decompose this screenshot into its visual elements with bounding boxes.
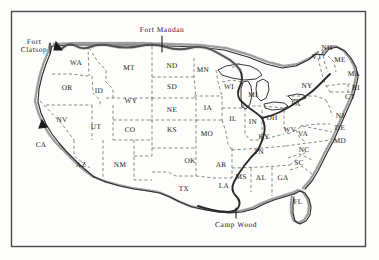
place-label-camp-wood: Camp Wood — [215, 221, 257, 228]
state-label-va: VA — [298, 130, 308, 137]
state-label-nh: NH — [321, 44, 332, 51]
state-label-ma: MA — [348, 70, 360, 77]
state-label-in: IN — [249, 118, 257, 125]
state-label-co: CO — [125, 126, 136, 133]
map-drawing — [0, 0, 379, 260]
state-label-nc: NC — [299, 146, 310, 153]
state-label-fl: FL — [293, 198, 302, 205]
state-label-ia: IA — [204, 104, 212, 111]
state-label-ok: OK — [184, 157, 195, 164]
state-label-pa: PA — [291, 100, 300, 107]
state-label-mn: MN — [197, 66, 209, 73]
state-label-il: IL — [229, 115, 237, 122]
place-label-line: Clatsop — [21, 45, 47, 54]
state-label-tn: TN — [254, 148, 264, 155]
state-label-mt: MT — [123, 64, 135, 71]
state-label-nj: NJ — [336, 112, 345, 119]
state-label-ca: CA — [36, 141, 47, 148]
state-label-ct: CT — [345, 93, 355, 100]
state-label-ks: KS — [167, 126, 177, 133]
state-label-or: OR — [62, 84, 73, 91]
state-label-ri: RI — [352, 84, 360, 91]
state-label-nv: NV — [56, 116, 67, 123]
state-label-nd: ND — [166, 62, 177, 69]
state-label-wa: WA — [70, 59, 82, 66]
state-label-vt: VT — [312, 53, 322, 60]
state-label-ny: NY — [301, 82, 312, 89]
state-label-wy: WY — [125, 97, 138, 104]
state-label-wi: WI — [224, 83, 234, 90]
state-label-mi: MI — [248, 91, 258, 98]
state-label-az: AZ — [76, 161, 86, 168]
state-label-oh: OH — [266, 114, 277, 121]
state-label-wv: WV — [284, 126, 297, 133]
state-label-ms: MS — [235, 173, 246, 180]
state-label-la: LA — [219, 182, 229, 189]
state-label-md: MD — [334, 137, 346, 144]
state-label-tx: TX — [179, 185, 189, 192]
state-label-de: DE — [335, 124, 345, 131]
state-label-ne: NE — [167, 106, 177, 113]
state-label-mo: MO — [201, 130, 213, 137]
state-label-ga: GA — [277, 174, 288, 181]
place-label-line: Camp Wood — [215, 220, 257, 229]
state-label-me: ME — [334, 56, 346, 63]
state-label-ar: AR — [216, 161, 227, 168]
state-label-nm: NM — [114, 161, 126, 168]
state-label-ky: KY — [258, 133, 269, 140]
place-label-fort-mandan: Fort Mandan — [140, 26, 184, 33]
state-label-sc: SC — [294, 159, 304, 166]
state-label-al: AL — [256, 174, 266, 181]
map-figure: FortClatsopFort MandanCamp Wood WAORIDMT… — [0, 0, 379, 260]
place-label-fort-clatsop: FortClatsop — [21, 38, 47, 55]
state-label-sd: SD — [167, 83, 177, 90]
place-label-line: Fort Mandan — [140, 25, 184, 34]
state-label-ut: UT — [91, 123, 101, 130]
state-label-id: ID — [95, 87, 103, 94]
